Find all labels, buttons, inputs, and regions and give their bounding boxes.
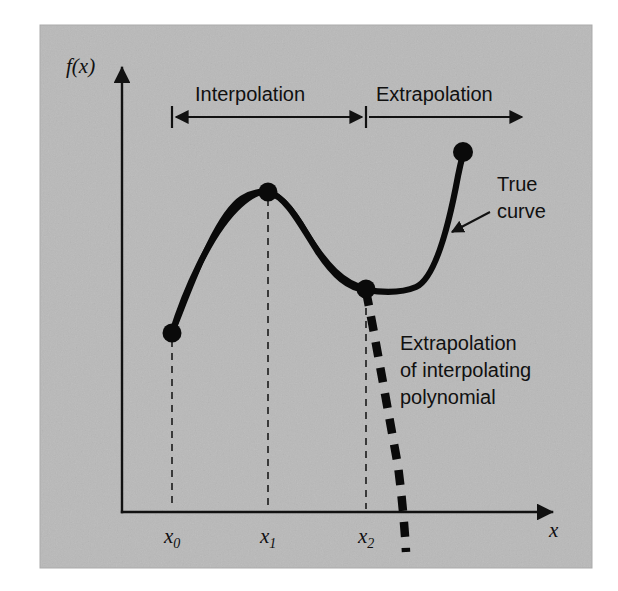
data-point-x1 xyxy=(259,183,278,202)
extrapolation-range-label: Extrapolation xyxy=(376,83,493,105)
y-axis-label: f(x) xyxy=(66,54,95,78)
x-axis-label: x xyxy=(548,518,559,542)
true-curve-label-line2: curve xyxy=(497,200,546,222)
interpolation-extrapolation-figure: f(x) x Interpolation Extrapolation xyxy=(0,0,618,591)
extrapolation-note-line2: of interpolating xyxy=(400,359,531,381)
data-point-x0 xyxy=(163,324,182,343)
extrapolation-note-line3: polynomial xyxy=(400,386,496,408)
interpolation-range-label: Interpolation xyxy=(195,83,305,105)
tick-label-x1-sub: 1 xyxy=(269,536,276,551)
figure-container: f(x) x Interpolation Extrapolation xyxy=(0,0,618,591)
tick-label-x0-sub: 0 xyxy=(173,536,180,551)
true-curve-label-line1: True xyxy=(497,173,537,195)
data-point-endpoint xyxy=(453,142,473,162)
extrapolation-note-line1: Extrapolation xyxy=(400,332,517,354)
tick-label-x2-sub: 2 xyxy=(367,536,374,551)
data-point-x2 xyxy=(357,280,376,299)
